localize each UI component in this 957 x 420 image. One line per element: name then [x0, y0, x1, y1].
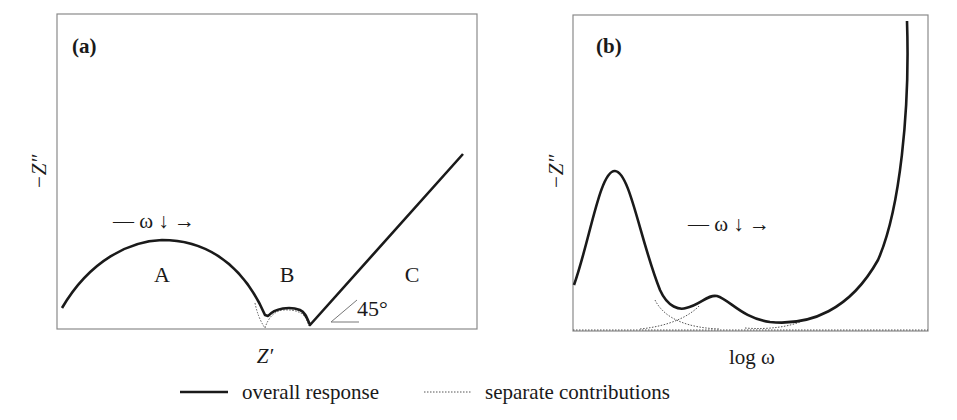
panel-b: (b) −Z″ log ω — ω ↓ →	[544, 15, 928, 369]
panel-b-tag: (b)	[596, 34, 622, 58]
legend-dotted-label: separate contributions	[485, 380, 670, 404]
legend-solid-label: overall response	[242, 380, 379, 404]
figure: (a) −Z″ Z′ — ω ↓ → A B C 45° (b) −Z″ log…	[0, 0, 957, 420]
region-c-label: C	[405, 262, 420, 287]
panel-b-frequency-arrow: — ω ↓ →	[687, 212, 770, 236]
angle-label: 45°	[357, 296, 388, 321]
panel-a-separate-contributions	[255, 303, 309, 328]
panel-b-overall-response	[574, 21, 908, 323]
panel-b-xlabel: log ω	[729, 345, 775, 369]
panel-a-overall-response	[62, 154, 463, 325]
angle-indicator	[331, 300, 359, 322]
region-b-label: B	[280, 262, 295, 287]
panel-b-ylabel: −Z″	[544, 154, 568, 189]
panel-b-frame	[573, 15, 928, 331]
panel-a: (a) −Z″ Z′ — ω ↓ → A B C 45°	[27, 14, 477, 368]
panel-a-frequency-arrow: — ω ↓ →	[112, 209, 195, 233]
panel-a-tag: (a)	[72, 34, 97, 58]
panel-a-xlabel: Z′	[257, 344, 274, 368]
region-a-label: A	[154, 262, 170, 287]
legend: overall response separate contributions	[180, 380, 670, 404]
panel-a-ylabel: −Z″	[27, 154, 51, 189]
